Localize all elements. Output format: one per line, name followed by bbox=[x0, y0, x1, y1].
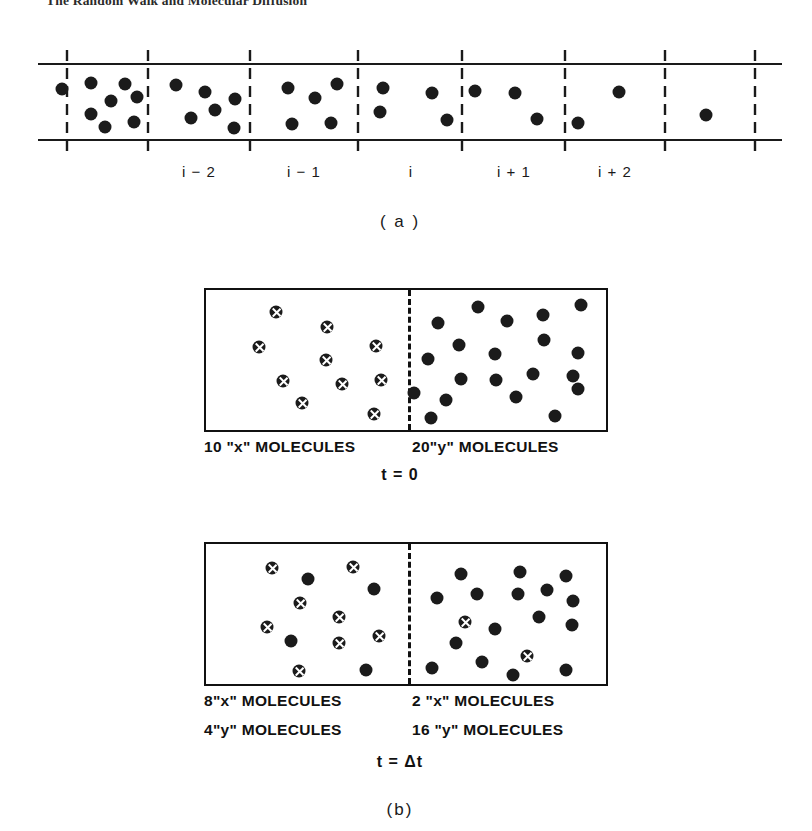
y-molecule bbox=[567, 595, 580, 608]
x-molecule bbox=[296, 397, 309, 410]
time-label-tdt: t = Δt bbox=[377, 753, 423, 771]
x-molecule bbox=[294, 597, 307, 610]
panel-a-molecule bbox=[229, 93, 242, 106]
cell-index-label: i − 1 bbox=[287, 163, 321, 180]
y-molecule bbox=[408, 387, 421, 400]
figure-panel-b: 10 "x" MOLECULES20"y" MOLECULESt = 08"x"… bbox=[0, 280, 812, 831]
figure-panel-a: i − 2i − 1ii + 1i + 2 ( a ) bbox=[0, 0, 812, 240]
x-molecule bbox=[333, 611, 346, 624]
panel-a-molecule bbox=[325, 117, 338, 130]
y-molecule bbox=[541, 584, 554, 597]
panel-a-molecule bbox=[309, 92, 322, 105]
y-molecule bbox=[472, 301, 485, 314]
panel-a-molecule bbox=[131, 91, 144, 104]
y-molecule bbox=[368, 583, 381, 596]
y-molecule bbox=[567, 370, 580, 383]
x-molecule bbox=[261, 621, 274, 634]
x-molecule bbox=[277, 375, 290, 388]
panel-a-molecule bbox=[374, 106, 387, 119]
x-molecule bbox=[375, 374, 388, 387]
panel-a-molecule bbox=[228, 122, 241, 135]
x-molecule bbox=[266, 562, 279, 575]
y-molecule bbox=[476, 656, 489, 669]
y-molecule bbox=[572, 383, 585, 396]
y-molecule bbox=[490, 374, 503, 387]
x-molecule bbox=[368, 408, 381, 421]
y-molecule bbox=[285, 635, 298, 648]
x-molecule bbox=[373, 630, 386, 643]
molecule-count-label: 10 "x" MOLECULES bbox=[204, 438, 355, 456]
panel-a-caption: ( a ) bbox=[380, 212, 420, 232]
panel-a-molecule bbox=[469, 85, 482, 98]
panel-a-molecule bbox=[56, 83, 69, 96]
y-molecule bbox=[560, 664, 573, 677]
y-molecule bbox=[450, 637, 463, 650]
y-molecule bbox=[575, 299, 588, 312]
y-molecule bbox=[566, 619, 579, 632]
panel-a-molecule bbox=[377, 82, 390, 95]
y-molecule bbox=[425, 412, 438, 425]
y-molecule bbox=[440, 394, 453, 407]
y-molecule bbox=[527, 368, 540, 381]
y-molecule bbox=[533, 611, 546, 624]
x-molecule bbox=[293, 665, 306, 678]
y-molecule bbox=[560, 570, 573, 583]
x-molecule bbox=[347, 561, 360, 574]
x-molecule bbox=[253, 341, 266, 354]
panel-a-molecule bbox=[209, 104, 222, 117]
y-molecule bbox=[426, 662, 439, 675]
panel-b-caption: (b) bbox=[387, 800, 414, 820]
y-molecule bbox=[471, 588, 484, 601]
panel-a-molecule bbox=[509, 87, 522, 100]
panel-a-molecule bbox=[700, 109, 713, 122]
y-molecule bbox=[537, 309, 550, 322]
molecule-count-label: 2 "x" MOLECULES bbox=[412, 692, 554, 710]
y-molecule bbox=[501, 315, 514, 328]
panel-a-molecule bbox=[282, 82, 295, 95]
x-molecule bbox=[320, 354, 333, 367]
panel-a-molecule bbox=[286, 118, 299, 131]
y-molecule bbox=[432, 317, 445, 330]
panel-a-molecule bbox=[531, 113, 544, 126]
box-partition-line bbox=[408, 544, 411, 684]
y-molecule bbox=[507, 669, 520, 682]
panel-a-molecule bbox=[199, 86, 212, 99]
y-molecule bbox=[455, 568, 468, 581]
panel-a-molecule bbox=[185, 112, 198, 125]
y-molecule bbox=[538, 334, 551, 347]
y-molecule bbox=[360, 664, 373, 677]
x-molecule bbox=[521, 650, 534, 663]
diffusion-box-tdt bbox=[204, 542, 608, 686]
y-molecule bbox=[302, 573, 315, 586]
y-molecule bbox=[422, 353, 435, 366]
x-molecule bbox=[459, 616, 472, 629]
panel-a-molecule bbox=[119, 78, 132, 91]
y-molecule bbox=[455, 373, 468, 386]
molecule-count-label: 4"y" MOLECULES bbox=[204, 721, 342, 739]
panel-a-molecule bbox=[99, 121, 112, 134]
molecule-count-label: 8"x" MOLECULES bbox=[204, 692, 342, 710]
cell-index-label: i + 1 bbox=[497, 163, 531, 180]
cell-index-label: i bbox=[409, 163, 413, 180]
panel-a-molecule bbox=[572, 117, 585, 130]
y-molecule bbox=[453, 339, 466, 352]
molecule-count-label: 20"y" MOLECULES bbox=[412, 438, 559, 456]
x-molecule bbox=[336, 378, 349, 391]
y-molecule bbox=[512, 588, 525, 601]
molecule-count-label: 16 "y" MOLECULES bbox=[412, 721, 563, 739]
diffusion-box-t0 bbox=[204, 288, 608, 432]
x-molecule bbox=[321, 321, 334, 334]
y-molecule bbox=[572, 347, 585, 360]
panel-a-molecule bbox=[426, 87, 439, 100]
y-molecule bbox=[514, 566, 527, 579]
cell-index-label: i + 2 bbox=[598, 163, 632, 180]
y-molecule bbox=[489, 348, 502, 361]
panel-a-molecule bbox=[170, 79, 183, 92]
box-partition-line bbox=[408, 290, 411, 430]
panel-a-molecule bbox=[105, 95, 118, 108]
y-molecule bbox=[431, 592, 444, 605]
x-molecule bbox=[370, 340, 383, 353]
time-label-t0: t = 0 bbox=[381, 466, 418, 484]
channel-diagram bbox=[0, 0, 812, 240]
panel-a-molecule bbox=[128, 116, 141, 129]
